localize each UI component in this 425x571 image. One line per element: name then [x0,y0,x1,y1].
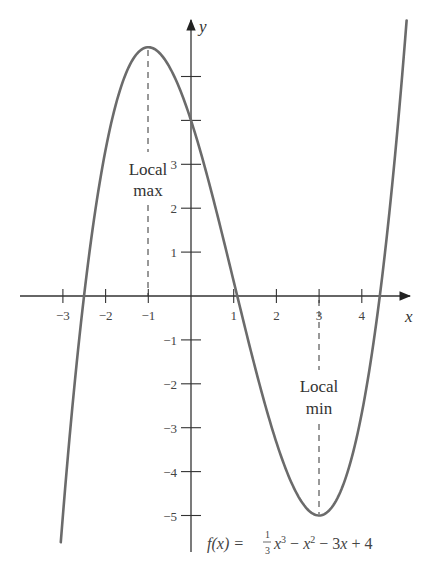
svg-text:x3 − x2 − 3x + 4: x3 − x2 − 3x + 4 [273,534,372,552]
function-curve [61,20,407,542]
function-formula: f(x) = 1 3 x3 − x2 − 3x + 4 [207,529,372,556]
y-tick-label: −1 [163,333,177,348]
svg-text:1: 1 [265,529,270,540]
x-tick-label: 4 [359,308,366,323]
x-tick-label: 2 [273,308,280,323]
local-max-label-line1: Local [129,160,168,179]
local-max-label-line2: max [133,181,163,200]
y-axis-label: y [197,17,207,36]
y-tick-label: 1 [171,245,178,260]
local-min-label-line1: Local [300,377,339,396]
x-tick-label: 1 [230,308,237,323]
y-tick-label: −3 [163,421,177,436]
y-tick-label: 2 [171,201,178,216]
svg-text:f(x) =: f(x) = [207,535,244,553]
x-tick-label: −1 [141,308,155,323]
y-tick-label: −5 [163,509,177,524]
y-ticks: −5−4−3−2−1123 [163,77,201,524]
x-axis-label: x [404,307,413,326]
x-tick-label: −2 [99,308,113,323]
svg-text:3: 3 [265,545,270,556]
y-tick-label: −2 [163,377,177,392]
local-min-label-line2: min [306,399,333,418]
x-tick-label: −3 [56,308,70,323]
y-tick-label: −4 [163,465,177,480]
function-graph: x y −3−2−11234 −5−4−3−2−1123 Local max L… [0,0,425,571]
y-tick-label: 3 [171,157,178,172]
